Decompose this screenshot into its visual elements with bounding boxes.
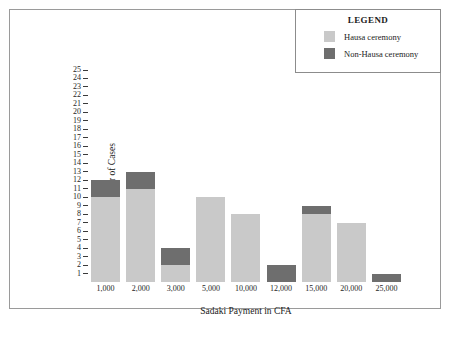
chart-figure: LEGEND Hausa ceremony Non-Hausa ceremony… [9, 9, 441, 309]
bar-group [88, 70, 404, 282]
plot-area: Number of Cases 123456789101112131415161… [88, 70, 404, 282]
x-axis-tick-label: 20,000 [334, 284, 369, 293]
bar-slot [88, 70, 123, 282]
bar-slot [193, 70, 228, 282]
bar-slot [158, 70, 193, 282]
bar-segment-non-hausa[interactable] [302, 206, 331, 214]
bar-stack[interactable] [196, 197, 225, 282]
bar-segment-non-hausa[interactable] [91, 180, 120, 197]
bar-stack[interactable] [372, 274, 401, 282]
y-axis-tick-label: 16 [73, 142, 81, 150]
x-axis-tick-label: 3,000 [158, 284, 193, 293]
legend-title: LEGEND [296, 15, 440, 25]
legend-entry-non-hausa: Non-Hausa ceremony [324, 48, 440, 59]
y-axis-tick-label: 9 [77, 202, 81, 210]
y-axis-tick-label: 6 [77, 227, 81, 235]
y-axis-tick-label: 2 [77, 261, 81, 269]
y-axis-tick-label: 7 [77, 219, 81, 227]
y-axis-tick-label: 5 [77, 236, 81, 244]
bar-segment-hausa[interactable] [231, 214, 260, 282]
legend-label-non-hausa: Non-Hausa ceremony [344, 49, 418, 59]
y-axis-tick-label: 18 [73, 125, 81, 133]
y-axis-tick-label: 11 [73, 185, 81, 193]
y-axis-tick-label: 20 [73, 108, 81, 116]
y-axis-tick-label: 12 [73, 176, 81, 184]
legend-label-hausa: Hausa ceremony [344, 32, 401, 42]
y-axis-tick-label: 4 [77, 244, 81, 252]
y-axis-tick-label: 19 [73, 117, 81, 125]
bar-stack[interactable] [161, 248, 190, 282]
bar-slot [369, 70, 404, 282]
bar-segment-hausa[interactable] [161, 265, 190, 282]
bar-slot [299, 70, 334, 282]
y-axis-tick-label: 1 [77, 270, 81, 278]
y-axis-tick-label: 17 [73, 134, 81, 142]
bar-stack[interactable] [267, 265, 296, 282]
y-axis-tick-label: 8 [77, 210, 81, 218]
y-axis-tick-label: 23 [73, 83, 81, 91]
bar-segment-non-hausa[interactable] [126, 172, 155, 189]
x-axis-tick-labels: 1,0002,0003,0005,00010,00012,00015,00020… [88, 284, 404, 293]
x-axis-tick-label: 5,000 [193, 284, 228, 293]
bar-segment-hausa[interactable] [337, 223, 366, 282]
bar-slot [334, 70, 369, 282]
y-axis-tick-label: 21 [73, 100, 81, 108]
y-axis-tick-label: 10 [73, 193, 81, 201]
bar-segment-hausa[interactable] [302, 214, 331, 282]
bar-stack[interactable] [231, 214, 260, 282]
x-axis-tick-label: 25,000 [369, 284, 404, 293]
bar-stack[interactable] [337, 223, 366, 282]
x-axis-tick-label: 10,000 [228, 284, 263, 293]
legend-entry-hausa: Hausa ceremony [324, 31, 440, 42]
bar-segment-non-hausa[interactable] [161, 248, 190, 265]
legend-swatch-hausa [324, 31, 335, 42]
x-axis-tick-label: 12,000 [264, 284, 299, 293]
bar-segment-hausa[interactable] [196, 197, 225, 282]
y-axis-tick-label: 22 [73, 91, 81, 99]
bar-segment-hausa[interactable] [126, 189, 155, 282]
bar-stack[interactable] [302, 206, 331, 282]
bar-segment-hausa[interactable] [91, 197, 120, 282]
y-axis-tick-label: 14 [73, 159, 81, 167]
bar-slot [264, 70, 299, 282]
x-axis-tick-label: 15,000 [299, 284, 334, 293]
y-axis-tick-label: 24 [73, 74, 81, 82]
bar-slot [123, 70, 158, 282]
x-axis-tick-label: 1,000 [88, 284, 123, 293]
bar-segment-non-hausa[interactable] [372, 274, 401, 282]
y-axis-tick-label: 25 [73, 66, 81, 74]
x-axis-label: Sadaki Payment in CFA [88, 306, 404, 316]
y-axis-tick-label: 3 [77, 253, 81, 261]
bar-slot [228, 70, 263, 282]
bar-stack[interactable] [91, 180, 120, 282]
bar-segment-non-hausa[interactable] [267, 265, 296, 282]
y-axis-tick-label: 13 [73, 168, 81, 176]
legend-swatch-non-hausa [324, 48, 335, 59]
bar-stack[interactable] [126, 172, 155, 282]
x-axis-tick-label: 2,000 [123, 284, 158, 293]
y-axis-tick-label: 15 [73, 151, 81, 159]
y-axis: 1234567891011121314151617181920212223242… [54, 70, 88, 282]
chart-legend: LEGEND Hausa ceremony Non-Hausa ceremony [295, 9, 441, 73]
